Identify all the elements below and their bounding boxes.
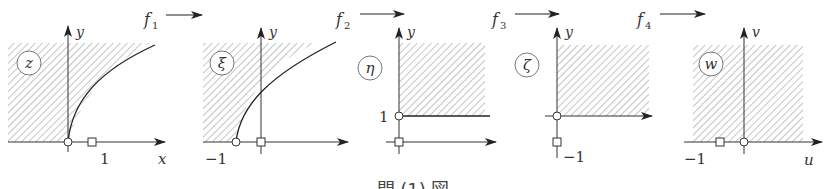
- square-point-minus1: [553, 138, 561, 146]
- figure-caption: 問 (1) 図: [377, 179, 450, 189]
- square-point-origin: [395, 138, 403, 146]
- v-axis-label: v: [752, 24, 760, 40]
- h-axis-label: x: [158, 150, 167, 168]
- v-axis-label: y: [406, 24, 416, 40]
- map-subscript: 3: [500, 20, 506, 31]
- mapping-diagram: z y x 1 f 1 ξ y −1 f 2 η y 1: [0, 0, 826, 189]
- panel-eta: η y 1: [358, 24, 496, 154]
- map-f4: f 4: [636, 10, 705, 31]
- map-f1: f 1: [143, 10, 202, 31]
- v-axis-label: y: [75, 24, 85, 40]
- square-point-1: [88, 138, 96, 146]
- map-subscript: 2: [344, 20, 350, 31]
- tick-label: 1: [100, 150, 110, 168]
- v-axis-label: y: [268, 24, 278, 40]
- shaded-region: [557, 45, 649, 116]
- open-point-origin: [553, 112, 561, 120]
- plane-label: z: [24, 54, 33, 72]
- panel-w: w v u −1: [684, 24, 822, 169]
- panel-z: z y x 1: [8, 24, 167, 168]
- tick-label: −1: [563, 148, 585, 166]
- map-f3: f 3: [491, 10, 559, 31]
- open-point-1: [395, 112, 403, 120]
- tick-label: −1: [205, 150, 227, 168]
- map-subscript: 4: [645, 20, 651, 31]
- plane-label: w: [705, 55, 718, 73]
- plane-label: ζ: [523, 56, 532, 74]
- panel-zeta: ζ y −1: [515, 24, 652, 166]
- v-axis-label: y: [564, 24, 574, 40]
- shaded-region: [399, 43, 485, 116]
- map-f2: f 2: [335, 10, 404, 31]
- tick-label: 1: [379, 108, 389, 126]
- plane-label: η: [366, 59, 375, 77]
- square-point-minus1: [716, 138, 724, 146]
- open-point-minus1: [232, 138, 240, 146]
- plane-label: ξ: [218, 54, 227, 72]
- open-point-origin: [740, 138, 748, 146]
- panel-xi: ξ y −1: [203, 24, 348, 168]
- open-point-origin: [64, 138, 72, 146]
- tick-label: −1: [684, 150, 706, 168]
- u-axis-label: u: [804, 151, 814, 169]
- square-point-origin: [257, 138, 265, 146]
- map-subscript: 1: [152, 20, 158, 31]
